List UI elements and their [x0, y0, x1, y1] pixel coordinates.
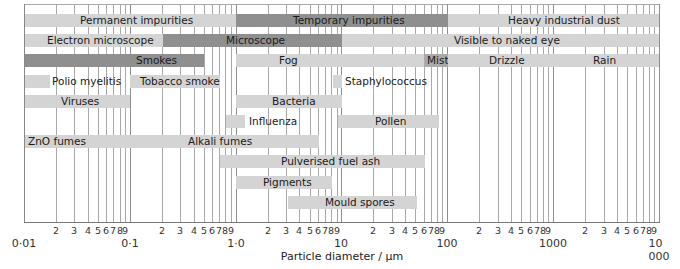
range-label: Permanent impurities: [80, 14, 193, 27]
range-label: Temporary impurities: [293, 14, 405, 27]
decade-tick-label: 10: [334, 237, 348, 250]
particle-size-chart: Permanent impuritiesTemporary impurities…: [0, 0, 680, 269]
minor-tick-label: 3: [601, 225, 607, 236]
minor-tick-label: 4: [191, 225, 197, 236]
minor-tick-label: 6: [315, 225, 321, 236]
range-label: Bacteria: [272, 95, 316, 108]
range-label: ZnO fumes: [28, 135, 86, 148]
x-axis-title: Particle diameter / µm: [281, 250, 403, 263]
minor-tick-label: 9: [122, 225, 128, 236]
decade-tick-label: 1·0: [227, 237, 245, 250]
minor-tick-label: 6: [633, 225, 639, 236]
minor-tick-label: 4: [614, 225, 620, 236]
decade-tick-label: 1000: [539, 237, 567, 250]
minor-tick-label: 3: [71, 225, 77, 236]
minor-tick-label: 9: [334, 225, 340, 236]
range-label: Tobacco smoke: [140, 75, 220, 88]
range-label: Pigments: [263, 176, 312, 189]
minor-tick-label: 9: [439, 225, 445, 236]
range-label: Rain: [593, 54, 616, 67]
range-bar: [333, 75, 342, 88]
range-label: Mist: [427, 54, 449, 67]
range-bar: [226, 115, 245, 128]
range-label: Smokes: [136, 54, 177, 67]
minor-tick-label: 5: [518, 225, 524, 236]
range-label: Polio myelitis: [52, 75, 121, 88]
minor-tick-label: 4: [296, 225, 302, 236]
minor-tick-label: 3: [177, 225, 183, 236]
range-bar: [236, 54, 424, 67]
decade-tick-label: 0·01: [12, 237, 37, 250]
minor-tick-label: 5: [95, 225, 101, 236]
minor-tick-label: 5: [624, 225, 630, 236]
range-label: Influenza: [249, 115, 297, 128]
minor-tick-label: 2: [370, 225, 376, 236]
range-label: Drizzle: [489, 54, 525, 67]
range-label: Visible to naked eye: [454, 34, 560, 47]
minor-tick-label: 3: [283, 225, 289, 236]
decade-tick-label: 0·1: [121, 237, 139, 250]
minor-tick-label: 9: [228, 225, 234, 236]
minor-tick-label: 6: [103, 225, 109, 236]
minor-tick-label: 4: [402, 225, 408, 236]
range-label: Pulverised fuel ash: [281, 155, 380, 168]
minor-tick-label: 2: [582, 225, 588, 236]
minor-tick-label: 5: [412, 225, 418, 236]
minor-tick-label: 6: [421, 225, 427, 236]
minor-tick-label: 3: [495, 225, 501, 236]
minor-tick-label: 7: [110, 225, 116, 236]
range-bar: [24, 54, 204, 67]
minor-tick-label: 6: [209, 225, 215, 236]
minor-tick-label: 2: [265, 225, 271, 236]
minor-tick-label: 6: [527, 225, 533, 236]
minor-tick-label: 5: [201, 225, 207, 236]
range-label: Alkali fumes: [188, 135, 252, 148]
minor-tick-label: 3: [389, 225, 395, 236]
minor-tick-label: 9: [651, 225, 657, 236]
range-label: Fog: [279, 54, 298, 67]
range-bar: [24, 75, 50, 88]
range-label: Microscope: [226, 34, 285, 47]
minor-tick-label: 5: [307, 225, 313, 236]
range-label: Viruses: [61, 95, 99, 108]
minor-tick-label: 9: [545, 225, 551, 236]
range-label: Mould spores: [325, 196, 395, 209]
range-label: Heavy industrial dust: [508, 14, 620, 27]
range-label: Electron microscope: [47, 34, 154, 47]
minor-tick-label: 2: [53, 225, 59, 236]
y-axis-line: [24, 4, 25, 223]
decade-tick-label: 10 000: [649, 237, 670, 263]
decade-tick-label: 100: [437, 237, 458, 250]
x-axis-line: [24, 222, 660, 223]
range-label: Staphylococcus: [345, 75, 427, 88]
minor-tick-label: 2: [476, 225, 482, 236]
minor-tick-label: 4: [508, 225, 514, 236]
minor-tick-label: 2: [159, 225, 165, 236]
minor-tick-label: 4: [85, 225, 91, 236]
gridline-decade: [659, 4, 660, 222]
range-label: Pollen: [375, 115, 406, 128]
